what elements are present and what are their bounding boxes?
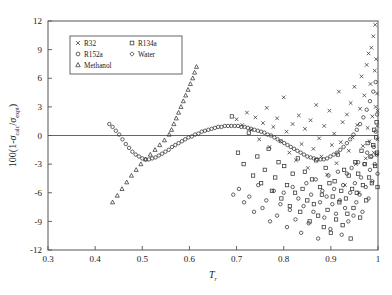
- data-point-methanol: [139, 162, 143, 166]
- data-point-water: [370, 155, 373, 158]
- data-point-r32: [306, 166, 310, 170]
- data-point-r152a-chain: [348, 138, 351, 141]
- data-point-r32: [353, 85, 357, 89]
- y-tick-label: -6: [35, 188, 43, 198]
- data-point-water: [297, 197, 300, 200]
- data-point-r134a: [256, 155, 259, 158]
- data-point-r152a-chain: [332, 153, 335, 156]
- y-tick-label: 3: [38, 102, 43, 112]
- data-point-water: [361, 210, 364, 213]
- y-tick-label: -3: [35, 159, 43, 169]
- data-point-r134a: [326, 208, 329, 211]
- data-point-r152a-chain: [207, 128, 210, 131]
- data-point-r32: [345, 113, 349, 117]
- data-point-methanol: [193, 70, 197, 74]
- data-point-methanol: [153, 148, 157, 152]
- data-point-r152a-chain: [329, 155, 332, 158]
- data-point-r152a-chain: [325, 157, 328, 160]
- data-point-r32: [337, 90, 341, 94]
- data-point-r134a: [341, 224, 344, 227]
- data-point-r152a-chain: [131, 150, 134, 153]
- data-point-water: [332, 187, 335, 190]
- data-point-water: [368, 168, 371, 171]
- data-point-r32: [367, 52, 371, 56]
- data-point-r152a-chain: [141, 157, 144, 160]
- data-point-r152a-chain: [286, 143, 289, 146]
- data-point-r32: [339, 140, 343, 144]
- data-point-water: [288, 208, 291, 211]
- data-point-r32: [341, 120, 345, 124]
- data-point-methanol: [129, 173, 133, 177]
- data-point-r134a: [277, 161, 280, 164]
- data-point-r134a: [352, 206, 355, 209]
- data-point-r152a-chain: [200, 130, 203, 133]
- data-point-r152a-chain: [174, 143, 177, 146]
- data-point-water: [265, 199, 268, 202]
- data-point-methanol: [115, 193, 119, 197]
- x-axis-title: Tr: [209, 269, 218, 282]
- data-point-r134a: [288, 204, 291, 207]
- data-point-r32: [257, 138, 261, 142]
- data-point-r134a: [357, 172, 360, 175]
- data-point-r152a-chain: [180, 140, 183, 143]
- data-point-r152a-chain: [282, 141, 285, 144]
- data-point-water: [305, 181, 308, 184]
- y-tick-label: 6: [38, 73, 43, 83]
- data-point-r152a-chain: [289, 145, 292, 148]
- data-point-r134a: [251, 174, 254, 177]
- data-point-r152a-chain: [358, 122, 361, 125]
- data-point-r32: [374, 105, 378, 109]
- data-point-r152a-chain: [137, 155, 140, 158]
- data-point-r152a-chain: [273, 136, 276, 139]
- data-point-water: [323, 216, 326, 219]
- data-point-r32: [328, 109, 332, 113]
- data-point-r152a-chain: [246, 126, 249, 129]
- data-point-r152a-chain: [170, 145, 173, 148]
- data-point-methanol: [169, 128, 173, 132]
- data-point-r134a: [283, 164, 286, 167]
- data-point-methanol: [179, 105, 183, 109]
- data-point-r152a-chain: [210, 127, 213, 130]
- data-point-r152a-chain: [365, 108, 368, 111]
- data-point-water: [347, 220, 350, 223]
- data-point-water: [359, 176, 362, 179]
- data-point-r32: [317, 137, 321, 141]
- x-tick-label: 1: [376, 254, 381, 264]
- data-point-r32: [297, 114, 301, 118]
- y-tick-label: 12: [33, 16, 42, 26]
- data-point-r152a-chain: [111, 125, 114, 128]
- data-point-water: [294, 218, 297, 221]
- data-point-r152a-chain: [345, 141, 348, 144]
- data-point-water: [314, 178, 317, 181]
- data-point-water: [350, 166, 353, 169]
- data-point-r32: [254, 116, 258, 120]
- data-point-water: [355, 201, 358, 204]
- data-point-water: [316, 237, 319, 240]
- data-point-water: [237, 187, 240, 190]
- x-tick-label: 0.8: [278, 254, 290, 264]
- data-point-r32: [235, 117, 239, 121]
- data-point-r32: [365, 63, 369, 67]
- data-point-r152a-chain: [114, 129, 117, 132]
- data-point-r152a-chain: [203, 129, 206, 132]
- data-point-r152a-chain: [253, 128, 256, 131]
- data-point-r152a-chain: [256, 129, 259, 132]
- data-point-water: [275, 214, 278, 217]
- data-point-water: [352, 214, 355, 217]
- data-point-water: [329, 227, 332, 230]
- x-tick-label: 0.5: [137, 254, 149, 264]
- data-point-r134a: [349, 237, 352, 240]
- data-point-methanol: [194, 65, 198, 69]
- data-point-r32: [361, 144, 365, 148]
- data-point-methanol: [148, 152, 152, 156]
- data-point-r152a-chain: [299, 151, 302, 154]
- data-point-r134a: [280, 197, 283, 200]
- data-point-r32: [370, 46, 374, 50]
- data-point-r152a-chain: [302, 153, 305, 156]
- data-point-methanol: [134, 168, 138, 172]
- data-point-r32: [376, 124, 380, 128]
- data-point-r134a: [310, 178, 313, 181]
- data-point-r134a: [358, 216, 361, 219]
- data-point-r152a-chain: [160, 152, 163, 155]
- data-point-r134a: [263, 168, 266, 171]
